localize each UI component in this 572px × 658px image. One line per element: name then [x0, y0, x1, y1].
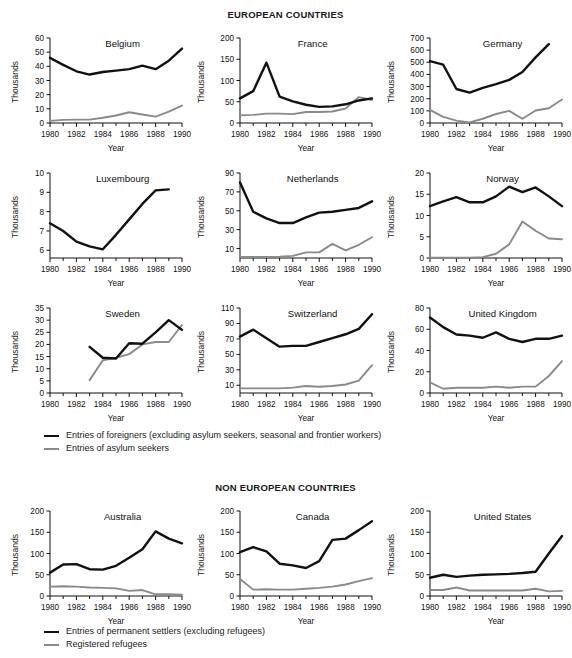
chart-title: Belgium	[105, 38, 140, 49]
svg-text:1986: 1986	[120, 265, 139, 274]
svg-text:30: 30	[225, 226, 235, 235]
x-axis-label: Year	[298, 144, 315, 153]
series-line-gray	[240, 237, 372, 257]
svg-text:1984: 1984	[94, 603, 113, 612]
svg-text:70: 70	[225, 188, 235, 197]
svg-text:25: 25	[35, 328, 45, 337]
chart-cell-germany: Thousands0100200300400500600700198019821…	[382, 24, 571, 159]
chart-title: Canada	[296, 511, 330, 522]
svg-text:500: 500	[410, 58, 424, 67]
chart-sweden: 05101520253035198019821984198619881990Ye…	[2, 294, 192, 429]
svg-text:40: 40	[35, 62, 45, 71]
y-axis-label: Thousands	[386, 47, 396, 117]
chart-row-1: Thousands0102030405060198019821984198619…	[0, 24, 571, 159]
series-line-black	[240, 314, 372, 346]
svg-text:0: 0	[419, 389, 424, 398]
svg-text:1988: 1988	[146, 265, 165, 274]
svg-text:15: 15	[35, 353, 45, 362]
svg-text:1980: 1980	[421, 130, 440, 139]
svg-text:1988: 1988	[336, 265, 355, 274]
svg-text:1980: 1980	[231, 603, 250, 612]
svg-text:1980: 1980	[231, 130, 250, 139]
svg-text:20: 20	[415, 368, 425, 377]
chart-norway: 05101520198019821984198619881990YearNorw…	[382, 159, 572, 294]
svg-text:1990: 1990	[553, 603, 572, 612]
series-line-gray	[240, 365, 372, 388]
svg-text:80: 80	[415, 304, 425, 313]
legend-label-permanent-settlers: Entries of permanent settlers (excluding…	[66, 626, 265, 637]
european-section-title: EUROPEAN COUNTRIES	[0, 9, 571, 20]
svg-text:30: 30	[35, 77, 45, 86]
x-axis-label: Year	[488, 144, 505, 153]
series-line-gray	[240, 578, 372, 589]
svg-text:1984: 1984	[284, 265, 303, 274]
x-axis-label: Year	[488, 279, 505, 288]
chart-cell-netherlands: Thousands1030507090198019821984198619881…	[192, 159, 382, 294]
svg-text:1982: 1982	[447, 265, 466, 274]
svg-text:60: 60	[35, 34, 45, 43]
chart-title: United States	[474, 511, 532, 522]
svg-text:1990: 1990	[363, 400, 382, 409]
svg-text:1986: 1986	[500, 130, 519, 139]
legend-line-black-icon	[44, 631, 59, 633]
series-line-gray	[430, 588, 562, 592]
svg-text:50: 50	[35, 48, 45, 57]
x-axis-label: Year	[108, 414, 125, 423]
svg-text:30: 30	[35, 316, 45, 325]
svg-text:1988: 1988	[526, 400, 545, 409]
series-line-black	[50, 49, 182, 75]
svg-text:50: 50	[225, 98, 235, 107]
y-axis-label: Thousands	[10, 317, 20, 387]
svg-text:30: 30	[225, 366, 235, 375]
svg-text:1984: 1984	[284, 603, 303, 612]
svg-text:0: 0	[419, 592, 424, 601]
series-line-gray	[430, 361, 562, 389]
svg-text:110: 110	[221, 304, 234, 313]
chart-row-4: Thousands0501001502001980198219841986198…	[0, 497, 571, 632]
chart-row-2: Thousands678910198019821984198619881990Y…	[0, 159, 571, 294]
x-axis-label: Year	[108, 279, 125, 288]
svg-text:200: 200	[410, 95, 424, 104]
chart-cell-luxembourg: Thousands678910198019821984198619881990Y…	[2, 159, 192, 294]
svg-text:1986: 1986	[310, 400, 329, 409]
svg-text:1984: 1984	[474, 603, 493, 612]
svg-text:90: 90	[225, 319, 235, 328]
y-axis-label: Thousands	[196, 47, 206, 117]
svg-text:200: 200	[30, 507, 44, 516]
series-line-black	[50, 189, 169, 249]
svg-text:10: 10	[415, 212, 425, 221]
svg-text:7: 7	[39, 227, 44, 236]
svg-text:1984: 1984	[474, 400, 493, 409]
svg-text:10: 10	[35, 365, 45, 374]
chart-title: Sweden	[105, 308, 140, 319]
svg-text:1986: 1986	[120, 400, 139, 409]
chart-title: Norway	[486, 173, 519, 184]
svg-text:1986: 1986	[500, 400, 519, 409]
x-axis-label: Year	[108, 144, 125, 153]
svg-text:400: 400	[410, 70, 424, 79]
non-european-legend: Entries of permanent settlers (excluding…	[0, 626, 571, 652]
chart-title: France	[298, 38, 328, 49]
svg-text:1990: 1990	[553, 130, 572, 139]
svg-text:1984: 1984	[94, 265, 113, 274]
y-axis-label: Thousands	[10, 520, 20, 590]
chart-france: 050100150200198019821984198619881990Year…	[192, 24, 382, 159]
svg-text:1982: 1982	[257, 265, 276, 274]
svg-text:0: 0	[39, 592, 44, 601]
svg-text:200: 200	[220, 34, 234, 43]
svg-text:10: 10	[35, 169, 45, 178]
chart-cell-australia: Thousands0501001502001980198219841986198…	[2, 497, 192, 632]
x-axis-label: Year	[298, 414, 315, 423]
y-axis-label: Thousands	[10, 182, 20, 252]
y-axis-label: Thousands	[196, 182, 206, 252]
svg-text:1984: 1984	[474, 265, 493, 274]
chart-row-3: Thousands0510152025303519801982198419861…	[0, 294, 571, 429]
svg-text:1980: 1980	[41, 130, 60, 139]
series-line-black	[430, 536, 562, 578]
chart-canada: 050100150200198019821984198619881990Year…	[192, 497, 382, 632]
x-axis-label: Year	[298, 279, 315, 288]
chart-switzerland: 1030507090110198019821984198619881990Yea…	[192, 294, 382, 429]
series-line-black	[430, 318, 562, 342]
svg-text:1988: 1988	[526, 130, 545, 139]
chart-belgium: 0102030405060198019821984198619881990Yea…	[2, 24, 192, 159]
